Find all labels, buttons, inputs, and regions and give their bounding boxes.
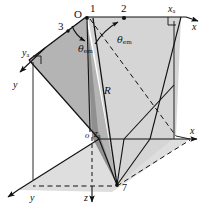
label-axis-z: z — [84, 193, 88, 203]
label-radius-R: R — [104, 85, 111, 96]
label-origin-O: O — [74, 9, 82, 20]
xa-subscript: a — [172, 7, 175, 14]
figure-canvas: O 1 2 3 7 R θem θem x x xa y ya y z za o — [0, 0, 203, 212]
label-axis-x-top: x — [192, 22, 196, 32]
za-subscript: a — [98, 133, 101, 139]
label-theta-right: θem — [117, 35, 132, 46]
label-vertex-bottom: 7 — [122, 183, 127, 193]
ya-subscript: a — [26, 51, 29, 58]
label-point-3: 3 — [58, 21, 64, 32]
label-point-1: 1 — [90, 3, 96, 14]
label-point-2: 2 — [121, 3, 127, 14]
label-origin-lower: o — [85, 131, 89, 140]
point-marker-2 — [122, 16, 126, 20]
label-axis-ya: ya — [22, 48, 29, 59]
point-marker-1 — [85, 16, 89, 20]
label-theta-left: θem — [78, 44, 93, 55]
diagram-svg — [0, 0, 203, 212]
label-axis-za: za — [94, 130, 100, 140]
point-marker-3 — [66, 29, 69, 32]
point-marker-vertex — [115, 183, 119, 187]
label-axis-xa: xa — [168, 4, 175, 15]
label-axis-y: y — [13, 80, 17, 90]
label-axis-y-lower: y — [30, 193, 34, 203]
label-axis-x-mid: x — [190, 126, 194, 136]
theta-left-subscript: em — [84, 48, 93, 54]
theta-right-subscript: em — [123, 39, 132, 45]
